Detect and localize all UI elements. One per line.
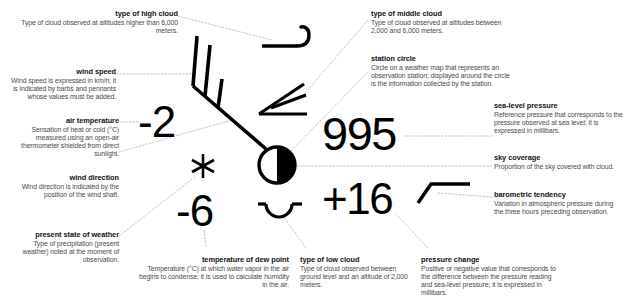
- callout-sea-level-pressure: sea-level pressure Reference pressure th…: [494, 102, 628, 135]
- callout-barometric-tendency: barometric tendency Variation in atmosph…: [494, 191, 618, 216]
- callout-type-of-high-cloud: type of high cloud Type of cloud observe…: [20, 10, 178, 35]
- dew-point-value: -6: [176, 189, 213, 233]
- callout-temperature-of-dew-point: temperature of dew point Temperature (°C…: [133, 256, 289, 289]
- callout-title: sea-level pressure: [494, 102, 628, 111]
- callout-air-temperature: air temperature Sensation of heat or col…: [8, 117, 119, 158]
- barometric-tendency-icon: [418, 184, 470, 203]
- callout-present-state-of-weather: present state of weather Type of precipi…: [8, 231, 119, 264]
- callout-title: sky coverage: [494, 154, 614, 163]
- callout-title: type of low cloud: [300, 256, 408, 265]
- callout-desc: Proportion of the sky covered with cloud…: [494, 163, 614, 171]
- callout-desc: Type of cloud observed between ground le…: [300, 265, 408, 289]
- callout-desc: Wind speed is expressed in km/h; it is i…: [8, 77, 116, 101]
- callout-title: type of high cloud: [20, 10, 178, 19]
- callout-title: barometric tendency: [494, 191, 618, 200]
- callout-title: wind speed: [8, 68, 116, 77]
- callout-type-of-middle-cloud: type of middle cloud Type of cloud obser…: [371, 10, 511, 35]
- callout-desc: Circle on a weather map that represents …: [371, 64, 511, 88]
- callout-desc: Type of cloud observed at altitudes high…: [20, 19, 178, 35]
- snowflake-asterisk-icon: [192, 154, 214, 178]
- station-model-diagram: -2 -6 995 +16 type of high cloud Type of…: [0, 0, 631, 298]
- callout-desc: Type of precipitation (present weather) …: [8, 240, 119, 264]
- high-cloud-hook-icon: [262, 27, 309, 46]
- callout-desc: Wind direction is indicated by the posit…: [8, 183, 119, 199]
- callout-title: temperature of dew point: [133, 256, 289, 265]
- callout-desc: Positive or negative value that correspo…: [421, 265, 563, 297]
- callout-type-of-low-cloud: type of low cloud Type of cloud observed…: [300, 256, 408, 289]
- callout-wind-speed: wind speed Wind speed is expressed in km…: [8, 68, 116, 101]
- air-temperature-value: -2: [138, 100, 175, 144]
- callout-desc: Variation in atmospheric pressure during…: [494, 200, 618, 216]
- callout-title: station circle: [371, 55, 511, 64]
- callout-desc: Type of cloud observed at altitudes betw…: [371, 19, 511, 35]
- callout-title: present state of weather: [8, 231, 119, 240]
- callout-title: air temperature: [8, 117, 119, 126]
- callout-desc: Temperature (°C) at which water vapor in…: [133, 265, 289, 289]
- callout-wind-direction: wind direction Wind direction is indicat…: [8, 174, 119, 199]
- callout-pressure-change: pressure change Positive or negative val…: [421, 256, 563, 297]
- callout-desc: Sensation of heat or cold (°C) measured …: [8, 126, 119, 158]
- callout-station-circle: station circle Circle on a weather map t…: [371, 55, 511, 88]
- low-cloud-arc-icon: [258, 204, 302, 217]
- callout-sky-coverage: sky coverage Proportion of the sky cover…: [494, 154, 614, 171]
- callout-desc: Reference pressure that corresponds to t…: [494, 111, 628, 135]
- callout-title: type of middle cloud: [371, 10, 511, 19]
- callout-title: wind direction: [8, 174, 119, 183]
- wind-barb-icon: [193, 36, 266, 149]
- station-circle-icon: [259, 147, 295, 183]
- sea-level-pressure-value: 995: [322, 110, 396, 157]
- middle-cloud-wedge-icon: [259, 84, 307, 114]
- pressure-change-value: +16: [322, 177, 392, 221]
- callout-title: pressure change: [421, 256, 563, 265]
